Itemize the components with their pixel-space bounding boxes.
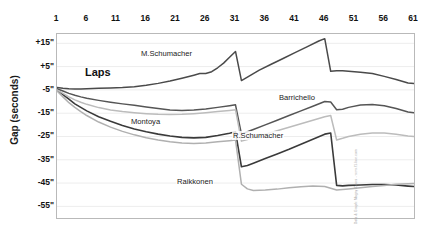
y-tick-label: -55"	[20, 201, 54, 209]
series-label: R.Schumacher	[232, 131, 284, 140]
x-tick-label: 1	[43, 13, 69, 23]
x-tick-label: 46	[311, 13, 337, 23]
series-label: Montoya	[130, 117, 161, 126]
x-tick-label: 36	[251, 13, 277, 23]
series-line	[57, 39, 414, 89]
series-label: M.Schumacher	[140, 49, 193, 58]
x-tick-label: 16	[132, 13, 158, 23]
laps-axis-label: Laps	[85, 66, 111, 78]
x-tick-label: 31	[222, 13, 248, 23]
series-label: Raikkonen	[176, 177, 214, 186]
x-tick-label: 51	[341, 13, 367, 23]
series-label: Barrichello	[278, 93, 316, 102]
x-tick-label: 6	[73, 13, 99, 23]
series-canvas	[57, 34, 414, 218]
y-tick-label: -35"	[20, 155, 54, 163]
y-tick-label: -25"	[20, 131, 54, 139]
y-axis-ticks: +15"+5"-5"-15"-25"-35"-45"-55"	[14, 0, 54, 231]
plot-area	[56, 33, 415, 219]
y-tick-label: +15"	[20, 38, 54, 46]
y-tick-label: -45"	[20, 178, 54, 186]
y-tick-label: +5"	[20, 62, 54, 70]
credit-text: Data & Graph: Magny-Cours - www.f1-live.…	[354, 215, 428, 224]
x-tick-label: 41	[281, 13, 307, 23]
race-gap-chart: Gap (seconds) +15"+5"-5"-15"-25"-35"-45"…	[0, 0, 430, 231]
y-tick-label: -15"	[20, 108, 54, 116]
x-tick-label: 11	[103, 13, 129, 23]
y-tick-label: -5"	[20, 85, 54, 93]
x-tick-label: 26	[192, 13, 218, 23]
x-tick-label: 21	[162, 13, 188, 23]
x-tick-label: 61	[400, 13, 426, 23]
x-tick-label: 56	[370, 13, 396, 23]
